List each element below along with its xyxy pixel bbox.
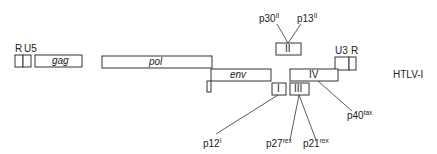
p13-connector (288, 24, 301, 43)
p21-connector (299, 95, 316, 140)
ltr-left-u5-box (23, 55, 31, 67)
ltr-right-r-label: R (351, 45, 358, 56)
p40-connector (318, 81, 352, 111)
ltr-right-u3-label: U3 (335, 45, 348, 56)
orf-iv-label: IV (309, 69, 319, 80)
p30-label: p30II (259, 12, 279, 24)
gag-label: gag (52, 55, 69, 66)
p40-label: p40tax (347, 109, 373, 121)
p13-label: p13II (297, 12, 317, 24)
htlv-genome-diagram: R U5 gag pol env II p30II p13II U3 R IV … (0, 0, 437, 154)
env-leader-box (207, 81, 211, 92)
ltr-left-r-label: R (15, 43, 22, 54)
p12-label: p12I (203, 137, 222, 149)
env-label: env (230, 69, 247, 80)
ltr-right-r-box (349, 57, 356, 70)
p27-label: p27rex (266, 137, 292, 149)
p27-connector (290, 95, 299, 140)
pol-label: pol (148, 56, 163, 67)
ltr-right-u3-box (335, 57, 349, 70)
orf-i-label: I (277, 83, 280, 94)
p21-label: p21rex (303, 137, 329, 149)
ltr-left-r-box (15, 55, 23, 67)
p12-connector (216, 95, 278, 134)
ltr-left-u5-label: U5 (24, 43, 37, 54)
p30-connector (277, 24, 288, 43)
orf-ii-label: II (285, 43, 291, 54)
orf-iii-label: III (294, 83, 302, 94)
virus-name-label: HTLV-I (393, 69, 423, 80)
